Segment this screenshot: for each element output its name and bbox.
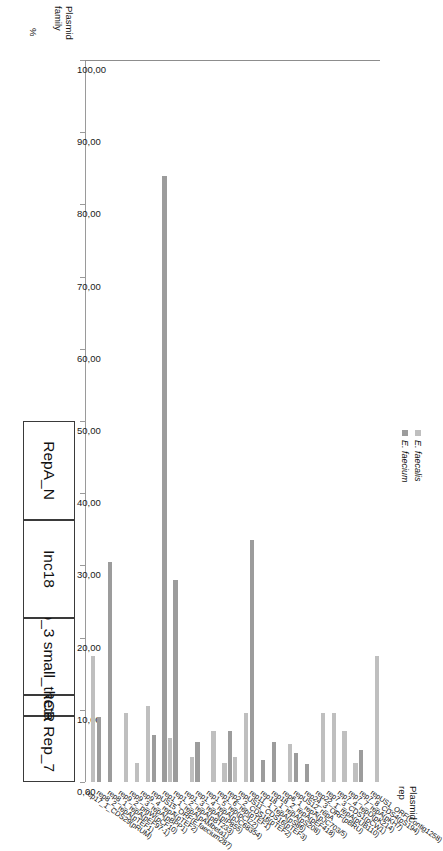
axis-tick-label: 80,00 (77, 208, 101, 219)
bar-e-faecium (152, 735, 156, 782)
bar-e-faecalis (190, 757, 194, 782)
axis-tick (80, 349, 85, 350)
zero-baseline (85, 60, 380, 61)
axis-tick (80, 277, 85, 278)
bar-e-faecium (108, 562, 112, 782)
axis-tick-label: 90,00 (77, 136, 101, 147)
value-axis-line (85, 60, 86, 782)
legend-item-e-faecalis: E. faecalis (413, 430, 423, 483)
family-box: Rep_3 small_theta (23, 618, 75, 694)
family-group-boxes: Rep_7RCRRep_3 small_thetaInc18RepA_N (23, 60, 75, 782)
axis-tick (80, 204, 85, 205)
family-label: RepA_N (40, 441, 58, 500)
chart-legend: E. faecalis E. faecium (397, 430, 423, 483)
bar-e-faecalis (91, 656, 95, 782)
bar-e-faecalis (168, 738, 172, 782)
bar-e-faecium (163, 176, 167, 782)
legend-swatch-e-faecalis (415, 430, 421, 436)
family-label: Inc18 (40, 550, 58, 588)
bar-e-faecium (97, 717, 101, 782)
family-box: Inc18 (23, 520, 75, 618)
bar-e-faecalis (233, 757, 237, 782)
axis-tick (80, 132, 85, 133)
axis-tick-label: 60,00 (77, 353, 101, 364)
rep-axis-title: Plasmid rep (397, 786, 419, 836)
family-box: Rep_7 (23, 716, 75, 782)
value-axis-title: % (28, 28, 39, 36)
bar-e-faecalis (332, 713, 336, 782)
bar-e-faecalis (244, 713, 248, 782)
axis-tick (80, 782, 85, 783)
legend-swatch-e-faecium (402, 430, 408, 436)
axis-tick-label: 20,00 (77, 642, 101, 653)
axis-tick-label: 100,00 (77, 64, 106, 75)
bar-e-faecalis (135, 763, 139, 782)
bar-e-faecalis (321, 713, 325, 782)
axis-tick (80, 710, 85, 711)
bar-e-faecium (261, 760, 265, 782)
legend-label-e-faecium: E. faecium (400, 440, 410, 483)
bar-e-faecium (173, 580, 177, 782)
legend-label-e-faecalis: E. faecalis (413, 440, 423, 482)
bar-e-faecalis (353, 763, 357, 782)
bar-e-faecium (195, 742, 199, 782)
axis-tick-label: 50,00 (77, 425, 101, 436)
axis-tick (80, 493, 85, 494)
bar-e-faecium (272, 742, 276, 782)
family-box: RepA_N (23, 421, 75, 519)
axis-tick (80, 638, 85, 639)
bar-e-faecium (250, 540, 254, 782)
bar-e-faecalis (146, 706, 150, 782)
bar-e-faecium (294, 753, 298, 782)
axis-tick (80, 60, 85, 61)
axis-tick-label: 70,00 (77, 281, 101, 292)
family-label: Rep_7 (40, 726, 58, 772)
bar-e-faecium (305, 764, 309, 782)
family-axis-title: Plasmid family (53, 6, 75, 58)
axis-tick (80, 565, 85, 566)
axis-tick-label: 30,00 (77, 569, 101, 580)
legend-item-e-faecium: E. faecium (400, 430, 410, 483)
bar-e-faecalis (342, 731, 346, 782)
bar-e-faecalis (124, 713, 128, 782)
bar-e-faecalis (211, 731, 215, 782)
bar-e-faecalis (222, 763, 226, 782)
plot-area: 0,0010,0020,0030,0040,0050,0060,0070,008… (85, 60, 380, 782)
bar-e-faecium (359, 750, 363, 782)
axis-tick-label: 40,00 (77, 497, 101, 508)
axis-tick (80, 421, 85, 422)
bar-e-faecium (228, 731, 232, 782)
bar-e-faecalis (288, 744, 292, 782)
bar-e-faecalis (375, 656, 379, 782)
